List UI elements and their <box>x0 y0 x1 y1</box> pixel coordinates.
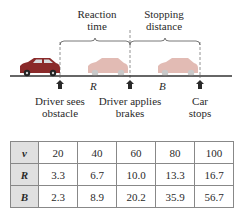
car-stops-label: Car stops <box>180 95 220 119</box>
cell: 100 <box>195 142 234 164</box>
cell: 16.7 <box>195 164 234 186</box>
car-stops-line1: Car <box>180 95 220 107</box>
driver-sees-line2: obstacle <box>28 107 92 119</box>
car-ghost-icon <box>88 58 128 76</box>
car-stops-line2: stops <box>180 107 220 119</box>
row-header: R <box>11 164 39 186</box>
cell: 6.7 <box>78 164 117 186</box>
arrow-up-icon <box>126 80 134 89</box>
cell: 56.7 <box>195 186 234 208</box>
arrow-up-icon <box>56 80 64 89</box>
table-row: v 20 40 60 80 100 <box>11 142 234 164</box>
row-header: v <box>11 142 39 164</box>
data-table: v 20 40 60 80 100 R 3.3 6.7 10.0 13.3 16… <box>10 141 234 208</box>
row-header: B <box>11 186 39 208</box>
cell: 13.3 <box>156 164 195 186</box>
cell: 20 <box>39 142 78 164</box>
driver-applies-line1: Driver applies <box>96 95 164 107</box>
cell: 2.3 <box>39 186 78 208</box>
cell: 60 <box>117 142 156 164</box>
driver-sees-label: Driver sees obstacle <box>28 95 92 119</box>
reaction-brace <box>60 38 130 45</box>
cell: 10.0 <box>117 164 156 186</box>
braking-diagram <box>0 0 239 95</box>
stopping-brace <box>130 38 200 45</box>
table-row: R 3.3 6.7 10.0 13.3 16.7 <box>11 164 234 186</box>
cell: 40 <box>78 142 117 164</box>
cell: 35.9 <box>156 186 195 208</box>
cell: 20.2 <box>117 186 156 208</box>
driver-applies-line2: brakes <box>96 107 164 119</box>
driver-sees-line1: Driver sees <box>28 95 92 107</box>
driver-applies-label: Driver applies brakes <box>96 95 164 119</box>
B-label: B <box>159 80 166 92</box>
R-label: R <box>90 80 97 92</box>
cell: 80 <box>156 142 195 164</box>
cell: 3.3 <box>39 164 78 186</box>
car-icon <box>20 58 60 76</box>
arrow-up-icon <box>196 80 204 89</box>
car-ghost-icon <box>158 58 198 76</box>
cell: 8.9 <box>78 186 117 208</box>
table-row: B 2.3 8.9 20.2 35.9 56.7 <box>11 186 234 208</box>
